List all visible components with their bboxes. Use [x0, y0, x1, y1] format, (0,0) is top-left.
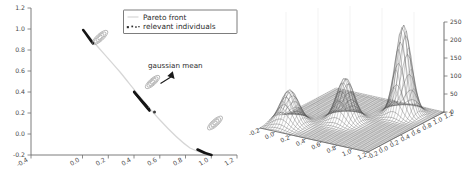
y-tick-label: 0.0 [377, 144, 389, 154]
z-tick-label: 50 [450, 90, 458, 97]
surface-plot-svg: 0 50 100 150 200 250 -0.20.00.20.40.60.8… [248, 0, 473, 179]
gaussian-cluster [143, 73, 161, 90]
y-tick-label: 0.4 [399, 132, 411, 142]
y-tick-label: 1.0 [15, 25, 25, 32]
x-tick-label: 1.0 [197, 156, 209, 167]
z-tick-label: 250 [450, 18, 462, 25]
x-tick-label: 0.8 [171, 156, 183, 167]
left-plot-y-ticks: -0.2 0.0 0.2 0.4 0.6 0.8 1.0 1.2 [13, 4, 31, 158]
y-tick-label: 0.6 [410, 127, 422, 137]
x-tick-label: -0.2 [248, 126, 261, 137]
y-tick-label: 0.8 [15, 46, 25, 53]
pareto-front-svg: -0.2 0.0 0.2 0.4 0.6 0.8 1.0 1.2 -0.4 [0, 0, 248, 179]
x-tick-label: 1.2 [223, 156, 235, 167]
y-tick-label: 0.6 [15, 67, 25, 74]
y-tick-label: 1.0 [432, 115, 444, 125]
relevant-individuals-segments [83, 30, 211, 155]
y-tick-label: 0.0 [15, 130, 25, 137]
legend-label: Pareto front [143, 13, 187, 22]
x-tick-label: 0.6 [146, 156, 158, 167]
pareto-front-curve [83, 29, 212, 155]
figure-canvas: -0.2 0.0 0.2 0.4 0.6 0.8 1.0 1.2 -0.4 [0, 0, 473, 179]
y-tick-label: 0.4 [15, 88, 25, 95]
legend[interactable]: Pareto front relevant individuals [124, 10, 238, 34]
left-plot-x-ticks: -0.4 0.0 0.2 0.4 0.6 0.8 1.0 1.2 [15, 155, 237, 168]
gaussian-mean-marker [153, 111, 156, 114]
z-tick-label: 150 [450, 54, 462, 61]
y-tick-label: 0.8 [421, 121, 433, 131]
surface-y-axis: -0.20.00.20.40.60.81.01.2 [366, 109, 455, 160]
z-tick-label: 200 [450, 36, 462, 43]
pareto-front-plot-panel: -0.2 0.0 0.2 0.4 0.6 0.8 1.0 1.2 -0.4 [0, 0, 248, 179]
gaussian-cluster [206, 114, 225, 132]
y-tick-label: 0.2 [15, 109, 25, 116]
legend-label: relevant individuals [143, 22, 216, 31]
x-tick-label: 0.0 [68, 156, 80, 167]
z-tick-label: 100 [450, 72, 462, 79]
annotation-label: gaussian mean [148, 61, 203, 70]
y-tick-label: 0.2 [388, 138, 400, 148]
y-tick-label: 1.2 [15, 4, 25, 11]
surface-z-axis: 0 50 100 150 200 250 [441, 18, 462, 115]
x-tick-label: 0.4 [120, 156, 132, 167]
gaussian-mixture-surface-panel: 0 50 100 150 200 250 -0.20.00.20.40.60.8… [248, 0, 473, 179]
x-tick-label: 0.2 [94, 156, 106, 167]
